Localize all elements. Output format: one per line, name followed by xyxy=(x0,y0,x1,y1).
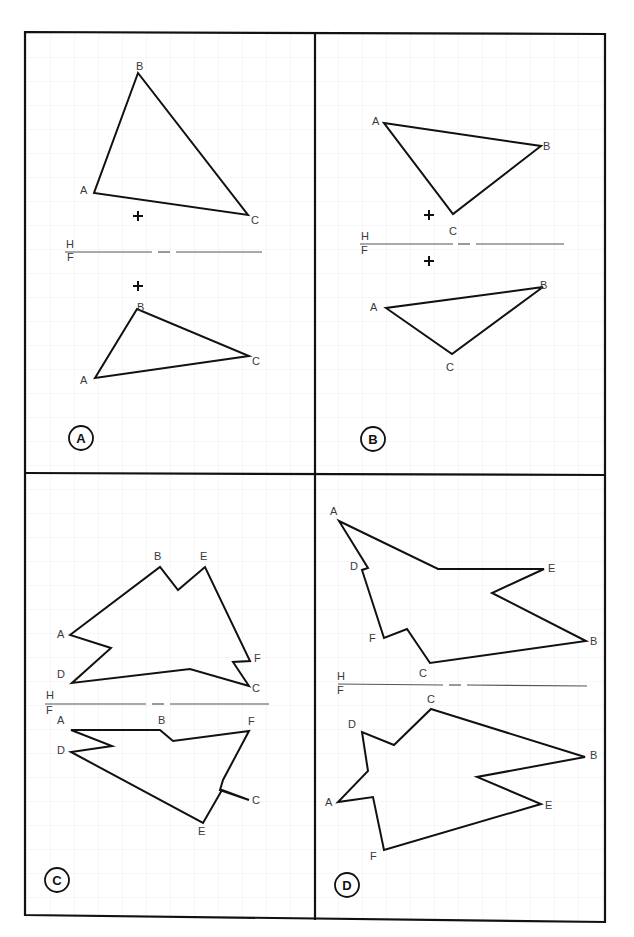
folding-line-label-h: H xyxy=(361,230,369,242)
vertex-label: C xyxy=(251,214,259,226)
vertex-label: C xyxy=(419,667,427,679)
folding-line-label-h: H xyxy=(46,689,54,701)
vertex-label: F xyxy=(369,632,376,644)
vertex-label: A xyxy=(370,301,378,313)
vertex-label: B xyxy=(158,714,165,726)
vertex-label: A xyxy=(325,796,333,808)
vertex-label: A xyxy=(80,374,88,386)
vertex-label: C xyxy=(446,361,454,373)
folding-line-label-h: H xyxy=(66,238,74,250)
svg-text:A: A xyxy=(76,431,86,446)
vertex-label: A xyxy=(330,505,338,517)
vertex-label: B xyxy=(137,301,144,313)
vertex-label: A xyxy=(372,115,380,127)
vertex-label: D xyxy=(348,718,356,730)
vertex-label: F xyxy=(248,715,255,727)
vertex-label: B xyxy=(590,635,597,647)
vertex-label: B xyxy=(540,279,547,291)
folding-line-label-f: F xyxy=(46,704,53,716)
vertex-label: C xyxy=(252,794,260,806)
vertex-label: C xyxy=(427,693,435,705)
vertex-label: D xyxy=(57,744,65,756)
vertex-label: B xyxy=(154,550,161,562)
drafting-sheet: B A C H F B A C A A B C xyxy=(0,0,634,937)
vertex-label: A xyxy=(57,628,65,640)
vertex-label: E xyxy=(198,825,205,837)
folding-line-label-f: F xyxy=(361,244,368,256)
vertex-label: A xyxy=(80,184,88,196)
vertex-label: C xyxy=(252,355,260,367)
svg-text:D: D xyxy=(342,878,351,893)
vertex-label: B xyxy=(543,140,550,152)
vertex-label: A xyxy=(57,714,65,726)
folding-line-label-f: F xyxy=(67,251,74,263)
vertex-label: C xyxy=(252,682,260,694)
vertex-label: D xyxy=(350,560,358,572)
svg-text:B: B xyxy=(368,432,377,447)
vertex-label: B xyxy=(136,60,143,72)
folding-line-label-h: H xyxy=(337,670,345,682)
vertex-label: E xyxy=(545,799,552,811)
vertex-label: F xyxy=(370,850,377,862)
vertex-label: D xyxy=(57,668,65,680)
folding-line-label-f: F xyxy=(337,684,344,696)
vertex-label: E xyxy=(200,550,207,562)
vertex-label: B xyxy=(590,749,597,761)
vertex-label: F xyxy=(254,652,261,664)
vertex-label: C xyxy=(449,225,457,237)
vertex-label: E xyxy=(548,562,555,574)
svg-text:C: C xyxy=(52,873,62,888)
